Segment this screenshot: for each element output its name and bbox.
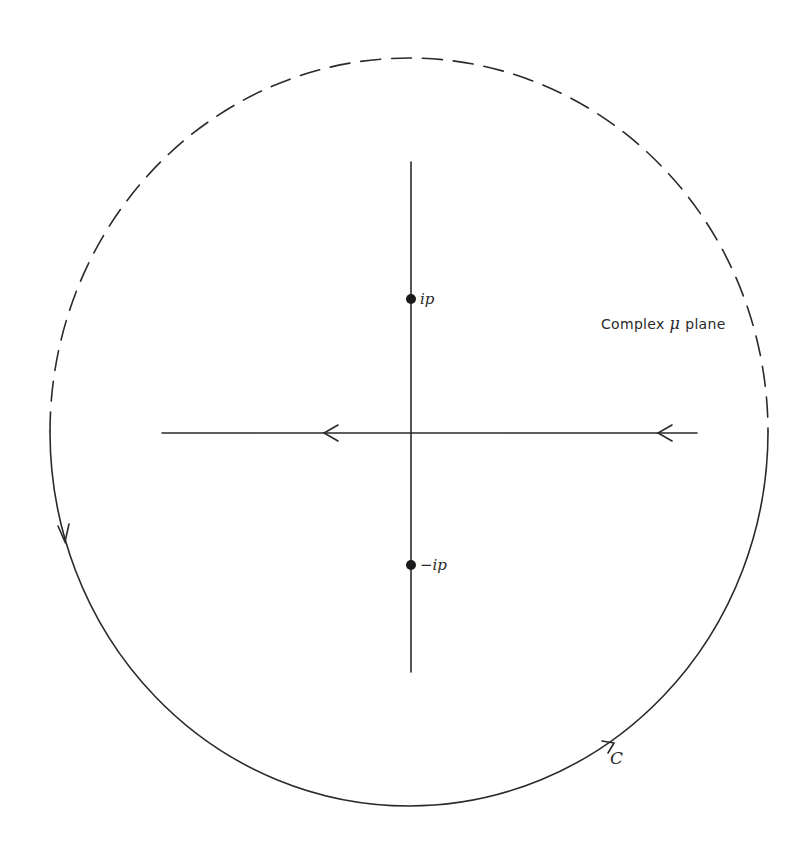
pole-minus-ip-dot [406,560,416,570]
lower-solid-arc [50,432,768,806]
contour-label: C [610,748,623,768]
pole-label-minus-ip: −ip [420,556,447,574]
pole-ip-dot [406,294,416,304]
plane-label-suffix: plane [685,316,725,332]
mu-symbol: μ [670,314,681,333]
contour-diagram [0,0,807,848]
upper-dashed-arc [50,58,768,432]
plane-label-prefix: Complex [601,316,665,332]
pole-label-ip: ip [420,290,434,308]
plane-label: Complexμplane [601,314,726,333]
